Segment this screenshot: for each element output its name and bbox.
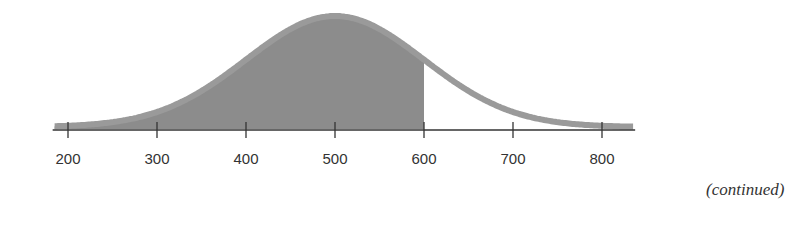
normal-distribution-chart: 200300400500600700800 — [0, 0, 807, 225]
continued-note: (continued) — [706, 180, 784, 200]
x-tick-label-500: 500 — [322, 150, 347, 167]
x-tick-label-300: 300 — [144, 150, 169, 167]
x-tick-label-600: 600 — [411, 150, 436, 167]
x-tick-label-400: 400 — [233, 150, 258, 167]
x-tick-label-700: 700 — [500, 150, 525, 167]
x-tick-label-800: 800 — [589, 150, 614, 167]
shaded-area-below-600 — [55, 16, 424, 129]
x-axis-tick-labels: 200300400500600700800 — [55, 150, 614, 167]
x-tick-label-200: 200 — [55, 150, 80, 167]
